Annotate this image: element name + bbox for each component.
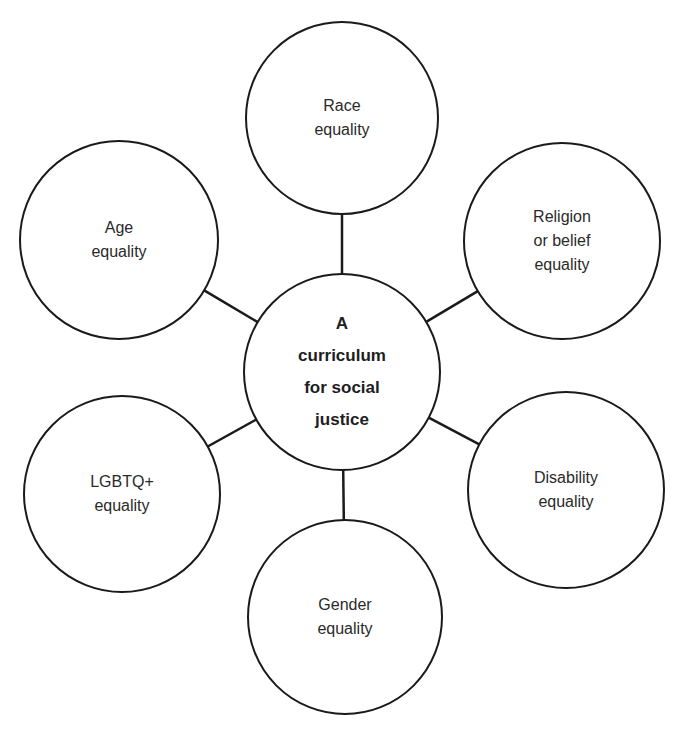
label-disability-line: equality (534, 490, 598, 514)
label-lgbtq-line: LGBTQ+ (90, 470, 154, 494)
connector-age (204, 290, 257, 322)
label-age-line: Age (91, 216, 146, 240)
connector-gender (343, 470, 344, 520)
center-label-line: justice (298, 404, 386, 436)
center-label-line: A (298, 308, 386, 340)
label-gender-line: equality (317, 617, 372, 641)
label-gender-line: Gender (317, 593, 372, 617)
label-religion: Religionor beliefequality (533, 205, 591, 277)
center-label-line: for social (298, 372, 386, 404)
connector-lgbtq (208, 420, 257, 447)
label-lgbtq-line: equality (90, 494, 154, 518)
label-race-line: equality (314, 118, 369, 142)
label-disability-line: Disability (534, 466, 598, 490)
center-label-line: curriculum (298, 340, 386, 372)
center-label: Acurriculumfor socialjustice (298, 308, 386, 436)
label-age: Ageequality (91, 216, 146, 264)
label-lgbtq: LGBTQ+equality (90, 470, 154, 518)
label-gender: Genderequality (317, 593, 372, 641)
label-race-line: Race (314, 94, 369, 118)
label-religion-line: Religion (533, 205, 591, 229)
label-religion-line: equality (533, 253, 591, 277)
label-disability: Disabilityequality (534, 466, 598, 514)
connector-religion (426, 291, 478, 322)
label-age-line: equality (91, 240, 146, 264)
connector-disability (429, 418, 480, 445)
label-religion-line: or belief (533, 229, 591, 253)
label-race: Raceequality (314, 94, 369, 142)
